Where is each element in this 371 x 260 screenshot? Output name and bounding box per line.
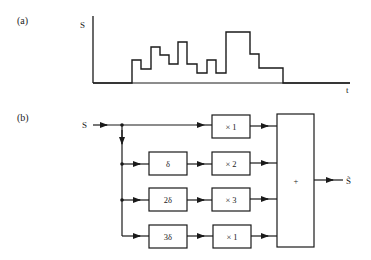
gain-block-4: × 1 bbox=[213, 225, 251, 248]
junction-dot bbox=[120, 123, 124, 127]
panel-a-label: (a) bbox=[17, 15, 28, 27]
y-axis-label: S bbox=[80, 20, 85, 30]
panel-b-block-diagram: (b) S δ 2δ 3δ bbox=[17, 112, 351, 248]
gain-block-label: × 1 bbox=[225, 122, 236, 132]
delay-block-1: δ bbox=[149, 152, 187, 175]
delay-block-label: δ bbox=[166, 159, 170, 169]
gain-block-label: × 2 bbox=[225, 159, 236, 169]
delay-block-label: 3δ bbox=[164, 232, 172, 242]
step-signal-curve bbox=[93, 32, 350, 83]
delay-block-2: 2δ bbox=[149, 188, 187, 211]
delay-block-label: 2δ bbox=[164, 195, 172, 205]
output-signal-label: S̃ bbox=[346, 176, 351, 186]
gain-block-label: × 3 bbox=[225, 195, 236, 205]
x-axis-label: t bbox=[346, 85, 349, 95]
gain-block-label: × 1 bbox=[226, 232, 237, 242]
panel-a-waveform: (a) S t bbox=[17, 15, 350, 95]
delay-block-3: 3δ bbox=[149, 225, 187, 248]
gain-block-1: × 1 bbox=[212, 115, 250, 138]
panel-b-label: (b) bbox=[17, 112, 29, 124]
input-signal-label: S bbox=[82, 120, 87, 130]
diagram-canvas: (a) S t (b) S δ 2δ bbox=[0, 0, 371, 260]
gain-block-2: × 2 bbox=[212, 152, 250, 175]
sum-block-label: + bbox=[294, 176, 299, 186]
sum-block: + bbox=[277, 114, 314, 247]
gain-block-3: × 3 bbox=[212, 188, 250, 211]
